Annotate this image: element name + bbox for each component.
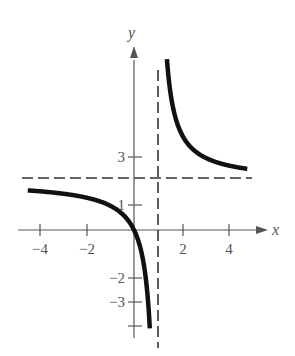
y-tick-label: 3 [118, 149, 126, 165]
x-tick-label: 2 [179, 241, 187, 257]
curve-left-branch [28, 190, 150, 328]
x-axis-label: x [271, 221, 279, 238]
y-tick-label: −2 [109, 270, 125, 286]
x-tick-label: −2 [79, 241, 95, 257]
y-axis-arrow-icon [130, 46, 138, 58]
y-axis-label: y [126, 24, 136, 42]
chart: −4 −2 2 4 3 1 −2 −3 x y [0, 0, 295, 356]
y-tick-label: −3 [109, 294, 125, 310]
curve-right-branch [167, 59, 247, 169]
x-tick-label: 4 [225, 241, 233, 257]
x-tick-label: −4 [32, 241, 48, 257]
x-axis-arrow-icon [256, 226, 268, 234]
